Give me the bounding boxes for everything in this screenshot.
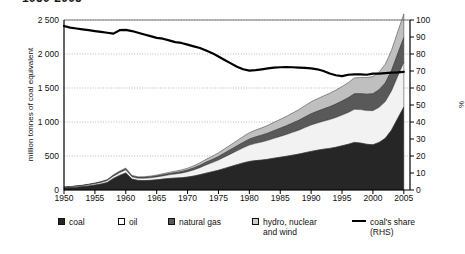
x-tick-label: 1970 (178, 193, 197, 203)
x-tick-label: 1980 (240, 193, 259, 203)
legend-label-line2: (RHS) (370, 227, 415, 237)
legend-label: natural gas (179, 217, 221, 227)
legend-color-swatch (58, 218, 65, 225)
legend-color-swatch (252, 218, 259, 225)
legend-label-line2: and wind (263, 227, 317, 237)
legend-item[interactable]: natural gas (168, 216, 221, 227)
legend-line-swatch (352, 220, 366, 222)
legend-item[interactable]: oil (118, 216, 138, 227)
x-tick-label: 2000 (363, 193, 382, 203)
x-tick-label: 1985 (271, 193, 290, 203)
x-tick-label: 1955 (85, 193, 104, 203)
legend-item[interactable]: coal (58, 216, 85, 227)
legend-item[interactable]: coal's share(RHS) (352, 216, 415, 237)
legend-label: hydro, nuclear (263, 217, 317, 227)
legend-label: coal (69, 217, 85, 227)
chart-legend: coaloilnatural gashydro, nuclearand wind… (0, 216, 465, 254)
x-tick-label: 1965 (147, 193, 166, 203)
legend-item[interactable]: hydro, nuclearand wind (252, 216, 317, 237)
chart-figure: 1950-2005 million tonnes of coal equival… (0, 0, 465, 254)
x-tick-label: 1960 (116, 193, 135, 203)
x-tick-label: 1975 (209, 193, 228, 203)
x-tick-label: 1950 (55, 193, 74, 203)
legend-color-swatch (118, 218, 125, 225)
x-tick-label: 1990 (302, 193, 321, 203)
legend-label: oil (129, 217, 138, 227)
x-tick-label: 1995 (333, 193, 352, 203)
legend-color-swatch (168, 218, 175, 225)
legend-label: coal's share (370, 217, 415, 227)
x-tick-label: 2005 (394, 193, 413, 203)
